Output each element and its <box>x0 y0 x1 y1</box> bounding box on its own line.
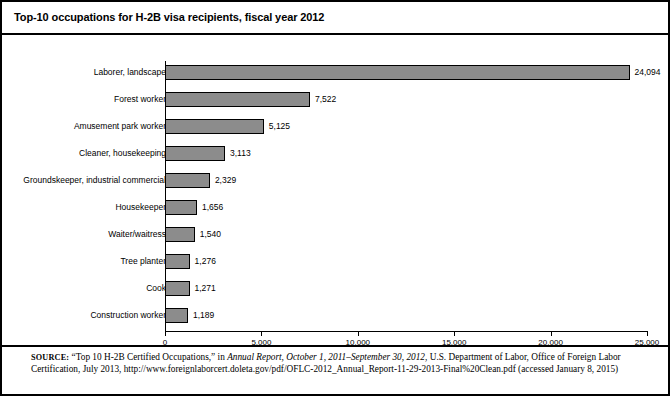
chart-plot-area: 05,00010,00015,00020,00025,000 Laborer, … <box>2 35 668 345</box>
bar <box>165 173 210 188</box>
bar <box>165 119 264 134</box>
bar-value-label: 2,329 <box>215 175 236 185</box>
x-tick-mark <box>261 331 262 336</box>
bar-value-label: 1,271 <box>195 283 216 293</box>
bar-value-label: 1,276 <box>195 256 216 266</box>
x-tick-mark <box>165 331 166 336</box>
bar <box>165 254 190 269</box>
bar-value-label: 1,656 <box>202 202 223 212</box>
bar-category-label: Groundskeeper, industrial commercial <box>23 175 166 185</box>
bar-category-label: Waiter/waitress <box>108 229 166 239</box>
bar-value-label: 5,125 <box>269 121 290 131</box>
bar-value-label: 1,540 <box>200 229 221 239</box>
x-tick-mark <box>358 331 359 336</box>
bar-category-label: Cook <box>146 283 166 293</box>
x-tick-mark <box>647 331 648 336</box>
title-band: Top-10 occupations for H-2B visa recipie… <box>2 2 668 35</box>
bar-value-label: 1,189 <box>193 310 214 320</box>
bar-row: Forest worker7,522 <box>2 88 668 115</box>
bar <box>165 65 630 80</box>
bar-category-label: Construction worker <box>90 310 166 320</box>
bar <box>165 92 310 107</box>
bar-category-label: Laborer, landscape <box>94 67 166 77</box>
bar-value-label: 7,522 <box>315 94 336 104</box>
x-tick-mark <box>551 331 552 336</box>
bar-category-label: Housekeeper <box>115 202 166 212</box>
source-part1: “Top 10 H-2B Certified Occupations,” in <box>72 352 228 362</box>
bar-row: Cook1,271 <box>2 277 668 304</box>
bar-row: Tree planter1,276 <box>2 250 668 277</box>
source-note: SOURCE: “Top 10 H-2B Certified Occupatio… <box>31 352 646 375</box>
bar <box>165 200 197 215</box>
bar-category-label: Amusement park worker <box>74 121 166 131</box>
page-title: Top-10 occupations for H-2B visa recipie… <box>14 11 324 23</box>
bar-row: Construction worker1,189 <box>2 304 668 331</box>
bar-row: Housekeeper1,656 <box>2 196 668 223</box>
bar-value-label: 24,094 <box>635 67 661 77</box>
bar-row: Laborer, landscape24,094 <box>2 61 668 88</box>
bar-category-label: Tree planter <box>120 256 166 266</box>
bar-category-label: Cleaner, housekeeping <box>79 148 166 158</box>
bar <box>165 281 190 296</box>
bar <box>165 308 188 323</box>
bar-category-label: Forest worker <box>114 94 166 104</box>
bar <box>165 146 225 161</box>
x-axis-line <box>165 331 647 332</box>
source-italic-title: Annual Report, October 1, 2011–September… <box>227 352 425 362</box>
bar-row: Amusement park worker5,125 <box>2 115 668 142</box>
source-band: SOURCE: “Top 10 H-2B Certified Occupatio… <box>2 345 668 394</box>
bar-row: Groundskeeper, industrial commercial2,32… <box>2 169 668 196</box>
source-label: SOURCE: <box>31 353 69 362</box>
bar <box>165 227 195 242</box>
bar-value-label: 3,113 <box>230 148 251 158</box>
figure-container: Top-10 occupations for H-2B visa recipie… <box>0 0 670 396</box>
bar-row: Cleaner, housekeeping3,113 <box>2 142 668 169</box>
bar-row: Waiter/waitress1,540 <box>2 223 668 250</box>
x-tick-mark <box>454 331 455 336</box>
